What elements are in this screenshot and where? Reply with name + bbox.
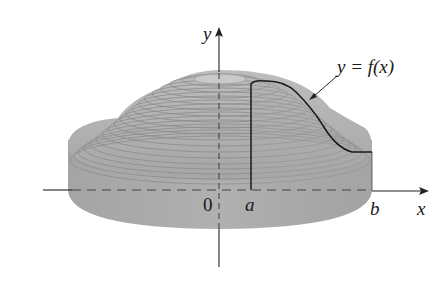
x-axis-label: x — [417, 199, 425, 218]
solid-top-center — [194, 74, 246, 84]
origin-label: 0 — [203, 195, 213, 214]
curve-label: y = f(x) — [337, 57, 394, 76]
solid-of-revolution-figure: y y = f(x) 0 a b x — [0, 0, 447, 289]
curve-label-pointer — [309, 76, 337, 100]
diagram-canvas — [0, 0, 447, 289]
b-label: b — [370, 199, 380, 218]
y-axis-label: y — [203, 24, 211, 43]
a-label: a — [245, 195, 255, 214]
